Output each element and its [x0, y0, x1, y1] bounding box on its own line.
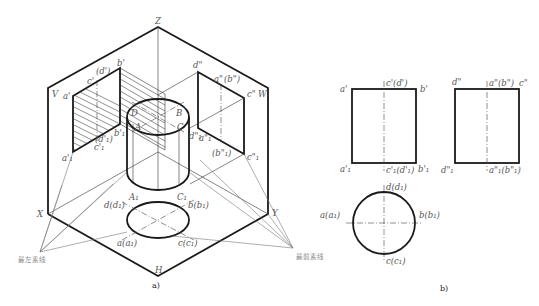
- fv-bottom-left: a'₁: [340, 164, 351, 174]
- label-d1-prime: (d'₁): [95, 134, 113, 144]
- fv-top-mid: c'(d'): [386, 78, 408, 88]
- label-B: B: [175, 108, 182, 118]
- label-c1-dprime: c"₁: [247, 152, 259, 162]
- label-D: D: [130, 108, 138, 118]
- label-b1-dprime: (b"₁): [212, 148, 231, 158]
- label-x: X: [36, 209, 44, 219]
- figure-a-isometric: Z X Y V W H a' b' c' (d') a'₁ b'₁ c'₁ (d…: [18, 16, 324, 290]
- label-w: W: [258, 89, 268, 99]
- label-C: C: [177, 122, 184, 132]
- callout-leftmost-line: 最左素线: [18, 255, 46, 264]
- sv-top-right: c": [519, 78, 528, 88]
- label-c-prime: c': [87, 76, 94, 86]
- label-A: A: [134, 122, 141, 132]
- label-C1: C₁: [177, 192, 187, 202]
- w-projector-bottom: [190, 154, 244, 184]
- v-hatch: [60, 76, 140, 182]
- fv-top-right: b': [420, 84, 428, 94]
- sv-bottom-mid: a"₁(b"₁): [489, 165, 521, 175]
- label-c-h: c(c₁): [178, 238, 198, 248]
- w-projector-top: [158, 72, 198, 95]
- tv-bottom: c(c₁): [386, 256, 406, 266]
- label-a-h: a(a₁): [117, 238, 137, 248]
- sv-top-left: d": [452, 77, 461, 87]
- label-h: H: [154, 265, 163, 275]
- label-a1-prime: a'₁: [62, 153, 73, 163]
- label-b-h: b(b₁): [188, 200, 209, 210]
- label-b-prime: b': [117, 58, 125, 68]
- label-y: Y: [272, 208, 279, 218]
- sv-top-mid: a"(b"): [489, 78, 514, 88]
- label-v: V: [52, 89, 59, 99]
- label-d-prime: (d'): [96, 66, 110, 76]
- label-A1: A₁: [128, 192, 139, 202]
- fv-bottom-mid: c'₁(d'₁): [386, 165, 414, 175]
- label-b1-prime: b'₁: [114, 128, 125, 138]
- label-a-dprime: a": [214, 74, 223, 84]
- tv-left: a(a₁): [320, 210, 340, 220]
- sv-bottom-left: d"₁: [441, 165, 454, 175]
- fv-bottom-right: b'₁: [418, 164, 429, 174]
- caption-b: b): [440, 284, 448, 293]
- caption-a: a): [152, 281, 160, 290]
- label-a-prime: a': [63, 91, 70, 101]
- fv-top-left: a': [340, 84, 347, 94]
- label-c-dprime: c": [247, 89, 256, 99]
- label-z: Z: [154, 16, 162, 26]
- cylinder-projection-diagram: Z X Y V W H a' b' c' (d') a'₁ b'₁ c'₁ (d…: [0, 0, 539, 306]
- tv-top: d(d₁): [386, 182, 407, 192]
- tv-right: b(b₁): [419, 210, 440, 220]
- label-a1-dprime: a"₁: [199, 133, 211, 143]
- callout-frontmost-line: 最前素线: [296, 252, 324, 261]
- v-projector-hatch: [115, 70, 170, 156]
- label-d-dprime: d": [193, 60, 202, 70]
- figure-b-three-views: a' c'(d') b' a'₁ c'₁(d'₁) b'₁ d" a"(b") …: [320, 77, 528, 293]
- label-b-dprime: (b"): [224, 74, 240, 84]
- label-d-h: d(d₁): [104, 200, 125, 210]
